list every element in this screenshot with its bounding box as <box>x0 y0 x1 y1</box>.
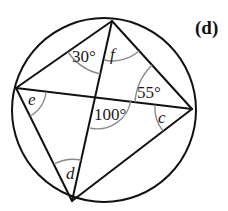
side-left-bottom <box>16 88 72 201</box>
figure-tag: (d) <box>195 17 218 39</box>
label-55-degrees: 55° <box>137 83 161 102</box>
label-e: e <box>28 90 36 109</box>
cyclic-quadrilateral-diagram: 30° f 55° e 100° c d (d) <box>0 0 228 211</box>
label-30-degrees: 30° <box>72 47 96 66</box>
label-d: d <box>66 164 75 183</box>
label-100-degrees: 100° <box>94 105 126 124</box>
label-c: c <box>158 108 166 127</box>
